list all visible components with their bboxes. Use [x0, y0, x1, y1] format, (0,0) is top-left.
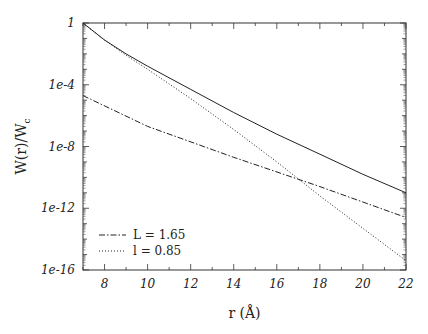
x-tick-label: 18: [312, 277, 328, 291]
series-dashdot: [83, 96, 406, 218]
x-tick-label: 12: [183, 277, 198, 291]
axis-ticks: 81012141618202211e-41e-81e-121e-16: [41, 16, 414, 291]
y-tick-label: 1: [67, 16, 75, 30]
x-tick-label: 10: [140, 277, 156, 291]
y-axis-label-main: W(r)/W: [13, 123, 29, 175]
y-axis-label: W(r)/Wc: [13, 118, 32, 174]
y-tick-label: 1e-12: [41, 201, 75, 215]
series-lines: [83, 23, 406, 261]
series-dotted: [83, 23, 406, 261]
x-tick-label: 8: [101, 277, 109, 291]
x-tick-label: 16: [269, 277, 285, 291]
y-tick-label: 1e-16: [41, 263, 75, 277]
x-axis-label: r (Å): [228, 304, 260, 321]
plot-frame: [83, 23, 406, 270]
series-solid: [83, 23, 406, 193]
y-axis-label-subscript: c: [22, 118, 32, 123]
y-tick-label: 1e-8: [49, 140, 76, 154]
x-tick-label: 20: [354, 277, 371, 291]
legend-label-l: l = 0.85: [133, 244, 181, 258]
y-tick-label: 1e-4: [49, 78, 75, 92]
x-tick-label: 22: [397, 277, 413, 291]
chart: 81012141618202211e-41e-81e-121e-16 L = 1…: [0, 0, 428, 334]
legend-label-L: L = 1.65: [133, 228, 185, 242]
x-tick-label: 14: [226, 277, 241, 291]
legend: L = 1.65 l = 0.85: [99, 228, 185, 258]
